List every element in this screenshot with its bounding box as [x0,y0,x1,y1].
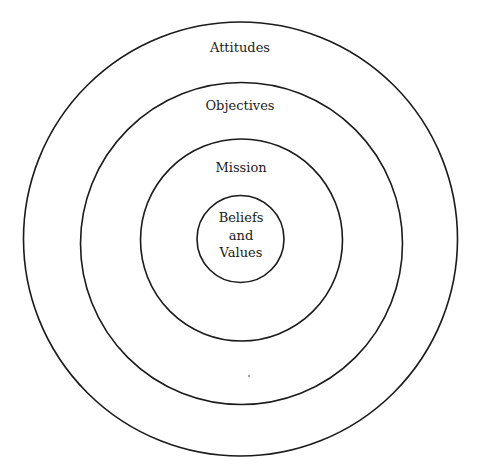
core-label-line-2: and [229,228,253,243]
concentric-circles-diagram: Attitudes Objectives Mission Beliefs and… [0,0,478,476]
objectives-ring [81,83,403,405]
attitudes-label: Attitudes [209,40,270,55]
core-label-line-3: Values [219,245,263,260]
mission-label: Mission [215,160,267,175]
core-label-line-1: Beliefs [219,210,264,225]
stray-dot [248,375,250,377]
objectives-label: Objectives [205,98,274,113]
